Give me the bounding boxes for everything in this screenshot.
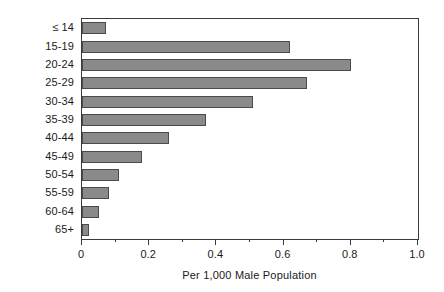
x-axis-title: Per 1,000 Male Population bbox=[81, 269, 418, 281]
x-axis-tick bbox=[350, 239, 351, 245]
y-axis-tick-label: ≤ 14 bbox=[52, 21, 74, 33]
y-axis-tick-label: 35-39 bbox=[45, 113, 74, 125]
bar bbox=[82, 206, 99, 218]
bars-layer bbox=[82, 19, 418, 239]
bar bbox=[82, 114, 206, 126]
bar bbox=[82, 187, 109, 199]
x-axis-tick bbox=[148, 239, 149, 245]
x-axis-tick-label: 0 bbox=[61, 248, 101, 261]
y-axis-tick-label: 65+ bbox=[55, 223, 74, 235]
x-axis-tick-label: 0.2 bbox=[128, 248, 168, 261]
y-axis-tick-label: 55-59 bbox=[45, 186, 74, 198]
bar bbox=[82, 59, 351, 71]
bar bbox=[82, 77, 307, 89]
x-axis-tick bbox=[283, 239, 284, 245]
y-axis-tick-label: 45-49 bbox=[45, 150, 74, 162]
bar bbox=[82, 151, 142, 163]
y-axis-tick-label: 30-34 bbox=[45, 95, 74, 107]
y-axis-tick-label: 15-19 bbox=[45, 40, 74, 52]
x-axis-tick-labels: 00.20.40.60.81.0 bbox=[0, 248, 444, 262]
x-axis-tick-label: 0.6 bbox=[263, 248, 303, 261]
x-axis-major-ticks bbox=[81, 239, 418, 247]
y-axis-tick-labels: ≤ 1415-1920-2425-2930-3435-3940-4445-495… bbox=[0, 18, 78, 238]
bar bbox=[82, 41, 290, 53]
bar-chart: Age ≤ 1415-1920-2425-2930-3435-3940-4445… bbox=[0, 0, 444, 292]
y-axis-tick-label: 20-24 bbox=[45, 58, 74, 70]
y-axis-tick-label: 60-64 bbox=[45, 205, 74, 217]
plot-area bbox=[81, 18, 419, 240]
bar bbox=[82, 169, 119, 181]
x-axis-tick-label: 1.0 bbox=[397, 248, 437, 261]
bar bbox=[82, 224, 89, 236]
bar bbox=[82, 22, 106, 34]
y-axis-tick-label: 25-29 bbox=[45, 76, 74, 88]
bar bbox=[82, 132, 169, 144]
x-axis-tick-label: 0.4 bbox=[195, 248, 235, 261]
x-axis-tick bbox=[81, 239, 82, 245]
bar bbox=[82, 96, 253, 108]
x-axis-tick bbox=[215, 239, 216, 245]
x-axis-tick-label: 0.8 bbox=[330, 248, 370, 261]
y-axis-tick-label: 50-54 bbox=[45, 168, 74, 180]
y-axis-tick-label: 40-44 bbox=[45, 131, 74, 143]
x-axis-tick bbox=[417, 239, 418, 245]
